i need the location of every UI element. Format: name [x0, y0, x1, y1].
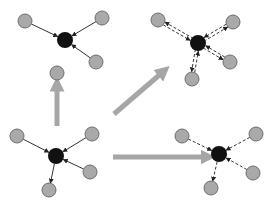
peripheral-node [226, 15, 240, 29]
panel-top-left [18, 11, 109, 69]
peripheral-node [246, 166, 260, 180]
edge [165, 22, 192, 38]
graph-panels [10, 11, 263, 197]
peripheral-node [83, 165, 97, 179]
peripheral-node [10, 129, 24, 143]
peripheral-node [85, 127, 99, 141]
peripheral-node [175, 129, 189, 143]
center-node [48, 148, 64, 164]
edge [226, 137, 250, 150]
peripheral-node [185, 72, 199, 86]
edge [226, 158, 247, 170]
edge [163, 25, 190, 41]
panel-bottom-left [10, 127, 99, 197]
edge [31, 24, 57, 37]
center-node [57, 32, 73, 48]
center-node [211, 146, 227, 162]
edge [72, 45, 91, 58]
edge [206, 27, 228, 40]
edge [50, 164, 54, 183]
transition-arrow-diagonal [114, 71, 164, 114]
isolated-node [50, 66, 64, 80]
edge [195, 51, 199, 72]
edge [23, 139, 49, 152]
edge [213, 162, 218, 181]
peripheral-node [223, 55, 237, 69]
peripheral-node [204, 181, 218, 195]
edge [72, 22, 96, 36]
edge [204, 24, 226, 37]
transition-arrows [57, 71, 208, 157]
center-node [190, 35, 206, 51]
isolated-nodes [50, 66, 64, 80]
edge [192, 51, 196, 72]
peripheral-node [42, 183, 56, 197]
peripheral-node [151, 13, 165, 27]
peripheral-node [249, 127, 263, 141]
panel-bottom-right [175, 127, 263, 195]
edge [63, 159, 83, 169]
peripheral-node [18, 14, 32, 28]
network-transformation-diagram [0, 0, 269, 206]
panel-top-right [151, 13, 240, 86]
edge [188, 139, 212, 150]
peripheral-node [89, 55, 103, 69]
peripheral-node [95, 11, 109, 25]
edge [63, 138, 86, 152]
